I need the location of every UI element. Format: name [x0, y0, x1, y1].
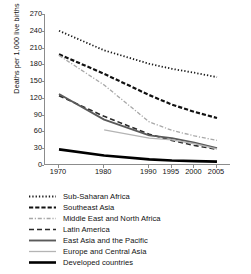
y-axis-tick-30: 30 — [16, 144, 42, 151]
y-tick-mark — [41, 31, 44, 32]
legend-item-latin-america[interactable]: Latin America — [29, 224, 239, 235]
x-axis-tick-1970: 1970 — [50, 167, 66, 176]
legend-item-east-asia-and-the-pacific[interactable]: East Asia and the Pacific — [29, 235, 239, 246]
x-tick-mark — [171, 165, 172, 168]
legend-label: East Asia and the Pacific — [63, 236, 148, 245]
y-axis-tick-90: 90 — [16, 111, 42, 118]
infant-mortality-line-chart: Deaths per 1,000 live births 03060901201… — [0, 0, 251, 274]
x-tick-mark — [103, 165, 104, 168]
x-axis-tick-labels: 197019801990199520002005 — [44, 167, 230, 179]
y-axis-tick-150: 150 — [16, 77, 42, 84]
y-tick-mark — [41, 148, 44, 149]
legend-line-swatch — [29, 191, 56, 202]
legend-label: Sub-Saharan Africa — [63, 192, 130, 201]
legend-item-europe-and-central-asia[interactable]: Europe and Central Asia — [29, 246, 239, 257]
legend-line-swatch — [29, 224, 56, 235]
x-axis-tick-1980: 1980 — [95, 167, 111, 176]
legend-line-swatch — [29, 202, 56, 213]
y-axis-tick-labels: 0306090120150180210240270 — [14, 0, 42, 175]
series-line-latin-america — [59, 96, 217, 150]
legend-label: Southeast Asia — [63, 203, 114, 212]
y-tick-mark — [41, 64, 44, 65]
series-line-east-asia-and-the-pacific — [59, 94, 217, 148]
legend-line-swatch — [29, 246, 56, 257]
x-axis-tick-2000: 2000 — [185, 167, 201, 176]
legend-label: Developed countries — [63, 258, 133, 267]
legend-item-sub-saharan-africa[interactable]: Sub-Saharan Africa — [29, 191, 239, 202]
series-line-middle-east-and-north-africa — [59, 55, 217, 140]
x-axis-tick-1995: 1995 — [163, 167, 179, 176]
x-tick-mark — [58, 165, 59, 168]
legend-line-swatch — [29, 235, 56, 246]
y-tick-mark — [41, 115, 44, 116]
plot-area — [44, 14, 230, 165]
legend-line-swatch — [29, 213, 56, 224]
y-tick-mark — [41, 81, 44, 82]
y-tick-mark — [41, 14, 44, 15]
legend-item-southeast-asia[interactable]: Southeast Asia — [29, 202, 239, 213]
x-tick-mark — [193, 165, 194, 168]
series-lines — [45, 14, 231, 165]
x-axis-tick-1990: 1990 — [140, 167, 156, 176]
x-tick-mark — [216, 165, 217, 168]
y-axis-tick-120: 120 — [16, 94, 42, 101]
series-line-developed-countries — [59, 149, 217, 161]
legend-item-developed-countries[interactable]: Developed countries — [29, 257, 239, 268]
y-axis-tick-60: 60 — [16, 127, 42, 134]
x-axis-tick-2005: 2005 — [208, 167, 224, 176]
legend-label: Europe and Central Asia — [63, 247, 146, 256]
y-axis-tick-270: 270 — [16, 10, 42, 17]
y-tick-mark — [41, 48, 44, 49]
legend-line-swatch — [29, 257, 56, 268]
y-axis-tick-210: 210 — [16, 44, 42, 51]
legend-item-middle-east-and-north-africa[interactable]: Middle East and North Africa — [29, 213, 239, 224]
series-line-europe-and-central-asia — [104, 130, 217, 149]
x-tick-mark — [148, 165, 149, 168]
y-tick-mark — [41, 98, 44, 99]
y-axis-tick-240: 240 — [16, 27, 42, 34]
y-axis-tick-180: 180 — [16, 60, 42, 67]
y-axis-tick-0: 0 — [16, 161, 42, 168]
legend-label: Middle East and North Africa — [63, 214, 161, 223]
y-tick-mark — [41, 165, 44, 166]
chart-legend: Sub-Saharan AfricaSoutheast AsiaMiddle E… — [29, 191, 239, 268]
legend-label: Latin America — [63, 225, 110, 234]
y-tick-mark — [41, 131, 44, 132]
